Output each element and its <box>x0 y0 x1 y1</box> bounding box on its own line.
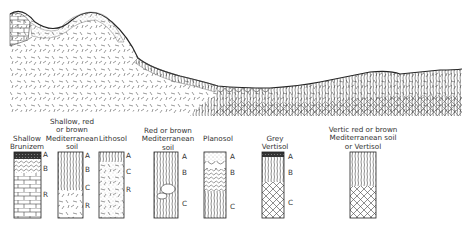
horizon-label: A <box>85 152 90 160</box>
profile-label-7: Vertic red or brown Mediterranean soil o… <box>328 126 398 151</box>
horizon-label: A <box>182 153 187 161</box>
profile-shallow-brunizem <box>14 152 41 218</box>
horizon-label: A <box>126 152 131 160</box>
horizon-label: C <box>182 200 187 208</box>
horizon-label: A <box>43 151 48 159</box>
horizon-label: R <box>43 191 48 199</box>
horizon-label: R <box>126 186 131 194</box>
horizon-label: B <box>288 169 293 177</box>
label-line: or Vertisol <box>328 143 398 151</box>
profile-mediterranean <box>154 152 178 218</box>
profile-planosol <box>204 152 226 218</box>
profile-grey-vertisol <box>262 152 284 218</box>
horizon-label: B <box>182 169 187 177</box>
horizon-label: B <box>43 165 48 173</box>
horizon-label: C <box>126 168 131 176</box>
profile-label-3: Lithosol <box>93 135 133 143</box>
profile-lithosol <box>99 152 124 218</box>
horizon-label: B <box>230 169 235 177</box>
soil-profiles <box>14 152 376 218</box>
profile-label-4: Red or brown Mediterranean soil <box>140 127 196 152</box>
profile-label-5: Planosol <box>198 135 238 143</box>
label-line: Lithosol <box>93 135 133 143</box>
horizon-label: C <box>288 199 293 207</box>
horizon-label: B <box>85 166 90 174</box>
horizon-label: R <box>85 202 90 210</box>
horizon-label: C <box>85 184 90 192</box>
landscape-cross-section <box>10 11 462 116</box>
horizon-label: C <box>230 203 235 211</box>
profile-vertic-mediterranean <box>350 152 376 218</box>
label-line: Vertisol <box>255 143 295 151</box>
profile-shallow-mediterranean <box>58 152 83 218</box>
label-line: soil <box>44 143 100 151</box>
profile-label-6: Grey Vertisol <box>255 135 295 152</box>
profile-label-2: Shallow, red or brown Mediterranean soil <box>44 118 100 152</box>
horizon-label: A <box>230 153 235 161</box>
label-line: Planosol <box>198 135 238 143</box>
label-line: soil <box>140 144 196 152</box>
horizon-label: A <box>288 153 293 161</box>
